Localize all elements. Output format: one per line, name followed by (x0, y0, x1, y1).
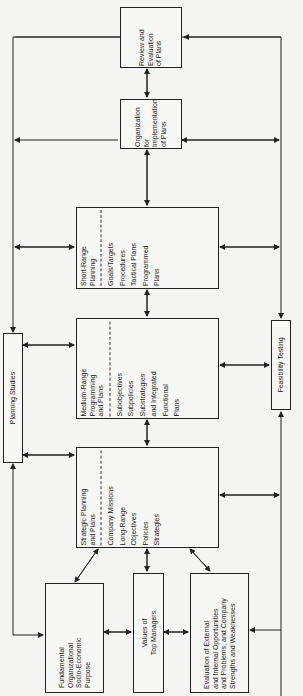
planning-studies-box: Planning Studies (3, 333, 23, 463)
fundamental-line: Purpose (83, 588, 92, 688)
organization-line: of Plans (160, 101, 169, 147)
medium-header: Programming (88, 321, 97, 416)
organization-line: Implementation (151, 101, 160, 147)
short-range-box: Short-Range Planning Goals/Targets Proce… (76, 207, 219, 289)
feasibility-testing-box: Feasibility Testing (271, 320, 291, 410)
fundamental-line: Socio-Economic (75, 588, 84, 688)
organization-line: Organization (134, 101, 143, 147)
values-line: Top Managers (149, 578, 158, 688)
evaluation-box: Evaluation of External and Internal Oppo… (190, 573, 249, 693)
fundamental-purpose-box: Fundamental Organizational Socio-Economi… (45, 583, 104, 693)
strategic-item: Policies (141, 450, 150, 545)
strategic-item: Strategies (152, 450, 161, 545)
evaluation-line: Evaluation of External (203, 577, 212, 689)
medium-item: Subobjectives (115, 321, 124, 416)
review-line: of Plans (155, 10, 164, 66)
strategic-header: Strategic Planning (79, 450, 88, 545)
review-box: Review and Evaluation of Plans (120, 7, 182, 68)
medium-header: and Plans (96, 321, 105, 416)
medium-item: Plans (172, 321, 181, 416)
medium-item: Substrategies (138, 321, 147, 416)
medium-header: Medium-Range (79, 321, 88, 416)
short-item: Tactical Plans (129, 210, 138, 286)
evaluation-line: Strengths and Weaknesses (228, 577, 237, 689)
strategic-item: Company Missions (106, 450, 115, 545)
short-item: Programmed (141, 210, 150, 286)
medium-item: and Integrated (149, 321, 158, 416)
organization-line: for (143, 101, 152, 147)
values-top-managers-box: Values of Top Managers (133, 573, 164, 693)
review-line: Review and (138, 10, 147, 66)
values-line: Values of (140, 578, 149, 688)
review-line: Evaluation (147, 10, 156, 66)
evaluation-line: and Problems, and Company (220, 577, 229, 689)
organization-box: Organization for Implementation of Plans (120, 99, 182, 149)
strategic-item: Long-Range (118, 450, 127, 545)
short-item: Goals/Targets (106, 210, 115, 286)
strategic-planning-box: Strategic Planning and Plans Company Mis… (76, 447, 219, 548)
short-item: Procedures (118, 210, 127, 286)
medium-item: Functional (161, 321, 170, 416)
medium-item: Subpolicies (126, 321, 135, 416)
medium-range-box: Medium-Range Programming and Plans Subob… (76, 318, 219, 419)
fundamental-line: Organizational (66, 588, 75, 688)
short-header: Planning (88, 210, 97, 286)
strategic-item: Objectives (129, 450, 138, 545)
evaluation-line: and Internal Opportunities (211, 577, 220, 689)
short-header: Short-Range (79, 210, 88, 286)
short-item: Plans (152, 210, 161, 286)
fundamental-line: Fundamental (58, 588, 67, 688)
strategic-header: and Plans (88, 450, 97, 545)
feasibility-testing-label: Feasibility Testing (277, 320, 286, 410)
planning-studies-label: Planning Studies (9, 333, 18, 463)
